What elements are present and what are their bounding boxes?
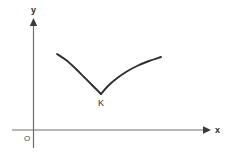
x-axis-arrowhead <box>203 126 211 134</box>
coordinate-plot: y x O K <box>0 0 228 152</box>
y-axis-arrowhead <box>30 18 37 26</box>
y-axis-label: y <box>31 5 36 15</box>
x-axis-label: x <box>215 125 220 135</box>
figure-canvas: y x O K <box>0 0 228 152</box>
curve-left-branch <box>57 54 101 94</box>
cusp-point-label-k: K <box>98 98 104 108</box>
curve-right-branch <box>101 57 161 94</box>
origin-label: O <box>24 134 30 143</box>
